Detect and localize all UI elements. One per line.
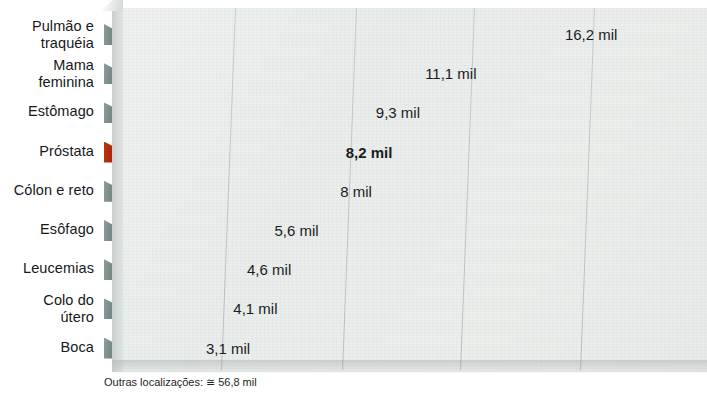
bar-row: Esôfago5,6 mil xyxy=(0,214,707,241)
bar-face-top xyxy=(117,18,122,24)
value-label: 16,2 mil xyxy=(565,27,618,42)
category-label: Próstata xyxy=(0,143,94,160)
bar-row: Colo do útero4,1 mil xyxy=(0,292,707,319)
bar-row: Pulmão e traquéia16,2 mil xyxy=(0,18,707,45)
bar xyxy=(112,332,197,359)
bar-row: Cólon e reto8 mil xyxy=(0,175,707,202)
bar-face-top xyxy=(117,96,122,102)
bar-face-cap xyxy=(104,298,112,319)
bar-face-cap xyxy=(104,24,112,45)
bar-highlighted xyxy=(112,136,337,163)
bar-face-cap xyxy=(104,259,112,280)
axis-floor xyxy=(112,360,707,374)
bar-chart: Pulmão e traquéia16,2 milMama feminina11… xyxy=(0,0,707,400)
bar-row: Mama feminina11,1 mil xyxy=(0,57,707,84)
bar-face-cap xyxy=(104,338,112,359)
category-label: Estômago xyxy=(0,103,94,120)
category-label: Mama feminina xyxy=(0,57,94,90)
value-label: 4,6 mil xyxy=(247,262,291,277)
bar-face-top xyxy=(117,175,122,181)
bar-face-top xyxy=(117,332,122,338)
bar xyxy=(112,175,331,202)
value-label: 4,1 mil xyxy=(233,301,277,316)
chart-footnote: Outras localizações: ≅ 56,8 mil xyxy=(104,376,257,389)
axis-left-wall-top xyxy=(101,0,123,11)
bar-face-top xyxy=(117,292,122,298)
bar xyxy=(112,253,238,280)
category-label: Boca xyxy=(0,339,94,356)
bar-row: Boca3,1 mil xyxy=(0,332,707,359)
bar-row: Estômago9,3 mil xyxy=(0,96,707,123)
bar-face-cap xyxy=(104,63,112,84)
value-label: 9,3 mil xyxy=(376,105,420,120)
bar-face-cap xyxy=(104,102,112,123)
category-label: Esôfago xyxy=(0,221,94,238)
bar-face-top xyxy=(117,253,122,259)
bar-face-top xyxy=(117,214,122,220)
value-label: 5,6 mil xyxy=(274,223,318,238)
bar xyxy=(112,18,556,45)
category-label: Colo do útero xyxy=(0,292,94,325)
bar-face-cap xyxy=(104,181,112,202)
bar-face-cap xyxy=(104,142,112,163)
category-label: Cólon e reto xyxy=(0,182,94,199)
bar-face-cap xyxy=(104,220,112,241)
bar-face-top xyxy=(117,136,122,142)
bar-row: Próstata8,2 mil xyxy=(0,136,707,163)
bar-row: Leucemias4,6 mil xyxy=(0,253,707,280)
bar xyxy=(112,96,367,123)
bar-face-top xyxy=(117,57,122,63)
bar xyxy=(112,214,265,241)
value-label: 11,1 mil xyxy=(425,66,476,81)
category-label: Leucemias xyxy=(0,260,94,277)
value-label: 3,1 mil xyxy=(206,341,250,356)
value-label: 8 mil xyxy=(340,184,372,199)
category-label: Pulmão e traquéia xyxy=(0,18,94,51)
bar xyxy=(112,292,224,319)
value-label: 8,2 mil xyxy=(346,145,393,160)
bar xyxy=(112,57,416,84)
